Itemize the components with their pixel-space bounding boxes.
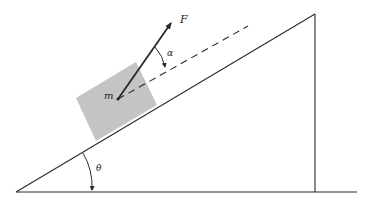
mass-label: m [104, 90, 113, 101]
alpha-angle-arc [155, 47, 165, 67]
theta-label: θ [96, 163, 102, 173]
incline-surface [16, 14, 315, 192]
alpha-label: α [167, 48, 173, 58]
incline-diagram: F m α θ [0, 0, 369, 204]
force-origin-dot [116, 97, 119, 100]
mass-block [76, 62, 157, 141]
theta-angle-arc [83, 153, 92, 190]
force-label: F [179, 13, 188, 26]
